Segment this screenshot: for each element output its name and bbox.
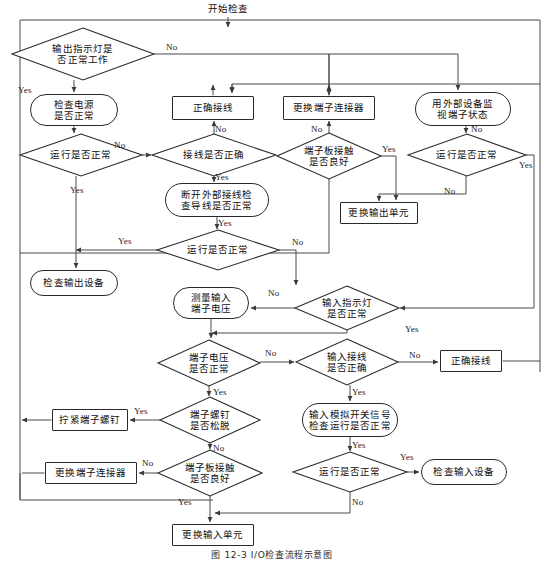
edge-label-yes-output-led: Yes (18, 85, 32, 95)
edge-label-no-run3: No (292, 237, 303, 247)
decision-wiring-correct-output: 接线是否正确 (152, 134, 276, 176)
process-tighten-terminal-screw: 拧紧端子螺钉 (52, 409, 128, 431)
process-correct-wiring-input: 正确接线 (440, 350, 502, 372)
edge-label-yes-wire1: Yes (215, 172, 229, 182)
edge-label-no-run2: No (444, 186, 455, 196)
edge-label-yes-run1: Yes (70, 185, 84, 195)
edge-label-no-term-volt: No (265, 348, 276, 358)
edge-label-no-screw: No (213, 443, 224, 453)
decision-run-normal-4: 运行是否正常 (293, 452, 407, 492)
decision-terminal-board-contact-output: 端子板接触 是否良好 (277, 133, 381, 179)
process-replace-terminal-connector-output: 更换端子连接器 (283, 96, 375, 120)
edge-label-no-run1: No (114, 140, 125, 150)
edge-label-yes-term-volt: Yes (213, 387, 227, 397)
edge-label-yes-run3: Yes (118, 236, 132, 246)
process-replace-output-unit: 更换输出单元 (340, 202, 418, 224)
edge-label-no-monitor-ext: No (471, 124, 482, 134)
process-check-output-device: 检查输出设备 (30, 270, 118, 296)
process-check-power: 检查电源 是否正常 (30, 94, 118, 126)
decision-input-indicator: 输入指示灯 是否正常 (295, 286, 399, 330)
edge-label-no-input-led: No (268, 288, 279, 298)
decision-output-indicator: 输出指示灯是 否正常工作 (12, 28, 154, 80)
process-replace-terminal-connector-input: 更换端子连接器 (45, 462, 137, 484)
edge-label-no-run4: No (352, 497, 363, 507)
process-monitor-terminal-external: 用外部设备监 视端子状态 (415, 92, 511, 126)
edge-label-yes-disconnect: Yes (218, 218, 232, 228)
edge-label-yes-sim-signal: Yes (352, 440, 366, 450)
process-correct-wiring-output: 正确接线 (172, 96, 254, 120)
decision-input-wiring-correct: 输入接线 是否正确 (296, 339, 398, 385)
edge-label-yes-screw: Yes (134, 406, 148, 416)
decision-terminal-board-contact-input: 端子板接触 是否良好 (158, 450, 262, 496)
edge-label-yes-tb-contact2: Yes (178, 497, 192, 507)
edge-label-yes-tb-contact1: Yes (382, 144, 396, 154)
decision-run-normal-3-label: 运行是否正常 (157, 230, 279, 270)
edge-label-yes-run4: Yes (400, 452, 414, 462)
decision-terminal-board-contact-input-label: 端子板接触 是否良好 (158, 450, 262, 496)
edge-label-yes-input-led: Yes (405, 324, 419, 334)
process-simulate-switch-signal: 输入模拟开关信号 检查运行是否正常 (302, 403, 398, 437)
decision-terminal-screw-loose: 端子螺钉 是否松脱 (160, 397, 260, 443)
edge-label-no-tb-contact1: No (311, 124, 322, 134)
decision-run-normal-4-label: 运行是否正常 (293, 452, 407, 492)
decision-wiring-correct-output-label: 接线是否正确 (152, 134, 276, 176)
process-check-input-device: 检查输入设备 (421, 459, 507, 485)
process-replace-input-unit: 更换输入单元 (172, 524, 254, 546)
process-measure-input-voltage: 测量输入 端子电压 (173, 287, 249, 319)
decision-terminal-voltage-label: 端子电压 是否正常 (158, 340, 260, 386)
decision-run-normal-3: 运行是否正常 (157, 230, 279, 270)
decision-input-wiring-correct-label: 输入接线 是否正确 (296, 339, 398, 385)
figure-caption: 图 12-3 I/O检查流程示意图 (0, 548, 544, 561)
decision-terminal-voltage: 端子电压 是否正常 (158, 340, 260, 386)
edge-label-yes-in-wire: Yes (352, 387, 366, 397)
process-disconnect-ext-wiring: 断开外部接线检 查导线是否正常 (165, 183, 269, 217)
edge-label-no-in-wire: No (409, 350, 420, 360)
edge-label-no-wire1: No (215, 124, 226, 134)
decision-output-indicator-label: 输出指示灯是 否正常工作 (12, 28, 154, 80)
decision-terminal-screw-loose-label: 端子螺钉 是否松脱 (160, 397, 260, 443)
node-start-inspection: 开始检查 (188, 2, 268, 16)
decision-run-normal-2-label: 运行是否正常 (408, 134, 526, 176)
edge-label-no-tb-contact2: No (142, 458, 153, 468)
decision-input-indicator-label: 输入指示灯 是否正常 (295, 286, 399, 330)
decision-terminal-board-contact-output-label: 端子板接触 是否良好 (277, 133, 381, 179)
edge-label-yes-run2: Yes (519, 160, 533, 170)
edge-label-no-output-led: No (166, 42, 177, 52)
decision-run-normal-2: 运行是否正常 (408, 134, 526, 176)
